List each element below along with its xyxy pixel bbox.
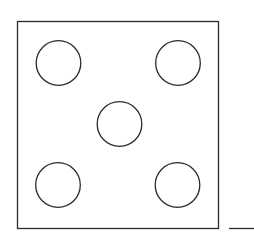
background — [0, 0, 254, 239]
die-face-diagram — [0, 0, 254, 239]
